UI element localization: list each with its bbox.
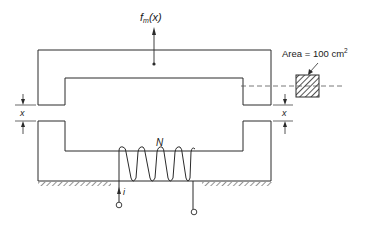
left-gap-dimension [15, 94, 36, 134]
ground-right [202, 182, 272, 186]
terminal-left [116, 202, 122, 208]
turns-label: N [156, 137, 164, 148]
force-arrow-icon [152, 27, 156, 66]
cross-section-square [296, 75, 319, 97]
force-label: fm(x) [140, 11, 162, 24]
left-gap-label: x [19, 108, 25, 118]
coil-winding [119, 147, 195, 209]
upper-core [38, 50, 271, 105]
ground-left [38, 182, 111, 186]
current-label: i [123, 187, 126, 197]
area-leader-arrow-icon [308, 63, 318, 75]
electromagnet-diagram: fm(x) Area = 100 cm2 x x N [0, 0, 375, 228]
current-arrow-icon [117, 187, 121, 194]
right-gap-label: x [281, 108, 287, 118]
terminal-right [191, 209, 197, 215]
lower-core [38, 121, 271, 181]
area-label: Area = 100 cm2 [282, 47, 348, 59]
